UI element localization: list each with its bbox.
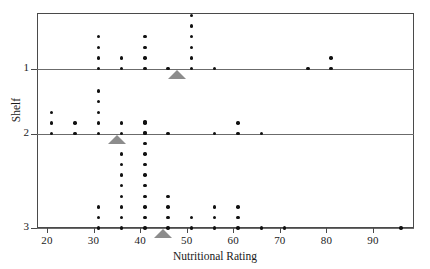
data-dot — [120, 121, 123, 124]
data-dot — [236, 121, 239, 124]
data-dot — [50, 121, 53, 124]
data-dot — [213, 226, 216, 229]
data-dot — [166, 205, 169, 208]
data-dot — [73, 132, 76, 135]
data-dot — [120, 205, 123, 208]
data-dot — [97, 46, 100, 49]
data-dot — [97, 121, 100, 124]
data-dot — [143, 195, 146, 198]
data-dot — [143, 67, 146, 70]
shelf-line-1 — [37, 69, 414, 70]
data-dot — [306, 67, 309, 70]
y-tick-label-1: 1 — [17, 61, 29, 73]
y-tick-1 — [31, 69, 37, 70]
y-tick-2 — [31, 134, 37, 135]
data-dot — [143, 226, 146, 229]
data-dot — [120, 173, 123, 176]
data-dot — [213, 205, 216, 208]
data-dot — [73, 121, 76, 124]
data-dot — [260, 132, 263, 135]
data-dot — [236, 132, 239, 135]
data-dot — [120, 152, 123, 155]
data-dot — [166, 132, 169, 135]
data-dot — [143, 163, 146, 166]
mean-marker-shelf-3 — [154, 229, 172, 238]
data-dot — [190, 56, 193, 59]
x-tick-40 — [140, 228, 141, 233]
data-dot — [97, 67, 100, 70]
y-tick-label-3: 3 — [17, 220, 29, 232]
data-dot — [120, 226, 123, 229]
x-tick-label-70: 70 — [265, 234, 295, 246]
data-dot — [190, 226, 193, 229]
data-dot — [190, 24, 193, 27]
data-dot — [143, 46, 146, 49]
data-dot — [97, 56, 100, 59]
x-tick-label-60: 60 — [218, 234, 248, 246]
x-tick-label-90: 90 — [358, 234, 388, 246]
data-dot — [97, 89, 100, 92]
data-dot — [236, 205, 239, 208]
data-dot — [143, 142, 146, 145]
x-tick-60 — [233, 228, 234, 233]
data-dot — [329, 56, 332, 59]
x-tick-50 — [187, 228, 188, 233]
data-dot — [399, 226, 402, 229]
data-dot — [143, 131, 146, 134]
data-dot — [166, 195, 169, 198]
x-axis-title: Nutritional Rating — [0, 250, 430, 262]
data-dot — [190, 46, 193, 49]
data-dot — [97, 205, 100, 208]
x-tick-label-50: 50 — [172, 234, 202, 246]
data-dot — [143, 35, 146, 38]
y-axis-title: Shelf — [10, 80, 22, 140]
x-tick-label-20: 20 — [32, 234, 62, 246]
data-dot — [236, 226, 239, 229]
data-dot — [166, 216, 169, 219]
data-dot — [97, 226, 100, 229]
data-dot — [283, 226, 286, 229]
data-dot — [143, 173, 146, 176]
data-dot — [120, 56, 123, 59]
x-tick-90 — [373, 228, 374, 233]
x-tick-70 — [280, 228, 281, 233]
data-dot — [97, 216, 100, 219]
dotplot-figure: 1232030405060708090 Nutritional Rating S… — [0, 0, 430, 269]
data-dot — [97, 111, 100, 114]
data-dot — [236, 216, 239, 219]
x-tick-20 — [47, 228, 48, 233]
shelf-line-2 — [37, 134, 414, 135]
plot-area — [37, 13, 414, 228]
data-dot — [143, 184, 146, 187]
data-dot — [143, 56, 146, 59]
data-dot — [143, 152, 146, 155]
x-tick-label-80: 80 — [311, 234, 341, 246]
data-dot — [143, 205, 146, 208]
data-dot — [329, 67, 332, 70]
x-tick-label-40: 40 — [125, 234, 155, 246]
data-dot — [260, 226, 263, 229]
x-tick-30 — [94, 228, 95, 233]
data-dot — [143, 120, 146, 123]
data-dot — [97, 132, 100, 135]
mean-marker-shelf-2 — [108, 135, 126, 144]
y-tick-3 — [31, 228, 37, 229]
data-dot — [143, 216, 146, 219]
mean-marker-shelf-1 — [168, 70, 186, 79]
x-tick-80 — [326, 228, 327, 233]
x-tick-label-30: 30 — [79, 234, 109, 246]
data-dot — [120, 195, 123, 198]
